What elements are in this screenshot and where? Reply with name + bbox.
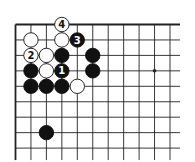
black-stone-disc [24,64,38,78]
black-stone [86,64,100,78]
white-stone-disc [39,48,53,62]
black-stone-disc [55,48,69,62]
white-stone-disc [70,79,84,93]
move-number-label: 1 [58,65,65,76]
black-stone-disc [39,125,53,139]
black-stone [39,79,53,93]
black-stone [39,125,53,139]
white-stone [55,33,69,47]
black-stone-disc [86,48,100,62]
white-stone [24,33,38,47]
white-stone [39,64,53,78]
black-stone-disc [39,79,53,93]
black-stone-disc [86,64,100,78]
board-grid [16,25,181,161]
black-stone [55,79,69,93]
white-stone-2: 2 [24,48,38,62]
move-number-label: 2 [27,50,34,61]
white-stone-disc [55,33,69,47]
star-point [153,69,157,73]
star-points [153,69,157,73]
black-stone [55,48,69,62]
black-stone [24,79,38,93]
move-number-label: 3 [74,35,81,46]
go-board: 4321 [0,0,195,162]
white-stone-4: 4 [55,17,69,31]
black-stone-1: 1 [55,64,69,78]
black-stone-disc [55,79,69,93]
black-stone [86,48,100,62]
white-stone-disc [24,33,38,47]
move-number-label: 4 [58,19,65,30]
white-stone [39,48,53,62]
black-stone-disc [24,79,38,93]
black-stone-3: 3 [70,33,84,47]
white-stone-disc [39,64,53,78]
black-stone [24,64,38,78]
white-stone [70,79,84,93]
